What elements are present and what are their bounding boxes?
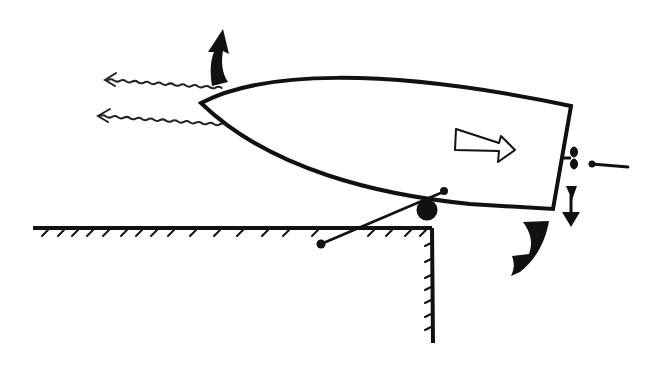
stern-down-arrow-icon [562, 186, 580, 227]
dock [33, 228, 433, 343]
boat-dock-diagram [0, 0, 659, 366]
boat-hull [201, 78, 571, 209]
bow-up-rotation-arrow-icon [208, 29, 229, 86]
wavy-arrow-icon [108, 79, 222, 89]
stern-down-rotation-arrow-icon [511, 221, 549, 276]
wavy-arrow-icon [100, 115, 226, 126]
tow-line [589, 161, 629, 168]
roller-icon [417, 200, 438, 221]
